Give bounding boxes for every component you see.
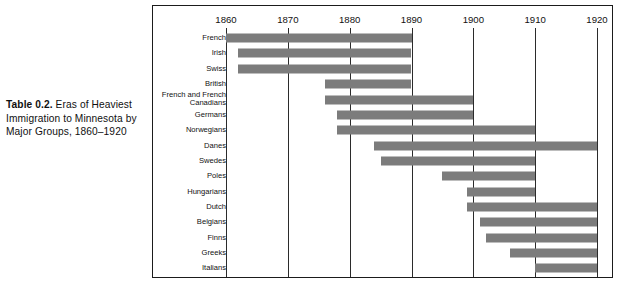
row-label-french-and-french-canadians: French and French Canadians [154,91,226,108]
row-label-greeks: Greeks [202,249,226,258]
chart-row: Germans [153,107,612,122]
chart-row: Swedes [153,153,612,168]
chart-frame: 1860187018801890190019101920FrenchIrishS… [152,5,613,278]
chart-row: Dutch [153,199,612,214]
chart-plot-area: 1860187018801890190019101920FrenchIrishS… [153,6,612,277]
row-label-germans: Germans [195,111,226,120]
axis-tick-label-1900: 1900 [463,14,484,25]
row-label-dutch: Dutch [206,203,226,212]
bar-finns [486,233,597,242]
row-label-hungarians: Hungarians [187,187,226,196]
bar-belgians [480,218,597,227]
bar-swedes [381,156,536,165]
row-label-italians: Italians [202,264,226,273]
row-label-irish: Irish [212,49,226,58]
row-label-belgians: Belgians [197,218,226,227]
bar-hungarians [467,187,535,196]
bar-irish [238,49,411,58]
bar-swiss [238,64,411,73]
row-label-swedes: Swedes [199,157,226,166]
chart-row: Italians [153,261,612,276]
axis-tick-label-1880: 1880 [339,14,360,25]
row-label-norwegians: Norwegians [186,126,226,135]
row-label-british: British [205,80,226,89]
axis-tick-label-1910: 1910 [524,14,545,25]
chart-row: French [153,31,612,46]
bar-british [325,80,412,89]
chart-row: Danes [153,138,612,153]
table-caption: Table 0.2. Eras of Heaviest Immigration … [6,98,146,139]
caption-lead: Table 0.2. [6,99,53,110]
chart-row: Norwegians [153,123,612,138]
bar-greeks [510,249,597,258]
bar-danes [374,141,597,150]
page-root: Table 0.2. Eras of Heaviest Immigration … [0,0,618,287]
chart-row: Irish [153,46,612,61]
bar-french [226,34,412,43]
row-label-poles: Poles [207,172,226,181]
bar-norwegians [337,126,535,135]
row-label-danes: Danes [204,141,226,150]
axis-tick-label-1890: 1890 [401,14,422,25]
row-label-swiss: Swiss [206,65,226,74]
axis-tick-label-1920: 1920 [586,14,607,25]
chart-row: Belgians [153,215,612,230]
row-label-finns: Finns [207,233,226,242]
chart-row: Swiss [153,61,612,76]
axis-tick-label-1870: 1870 [277,14,298,25]
chart-row: Poles [153,169,612,184]
chart-row: French and French Canadians [153,92,612,107]
bar-dutch [467,202,597,211]
bar-poles [442,172,535,181]
chart-row: Finns [153,230,612,245]
row-label-french: French [202,34,226,43]
chart-row: Hungarians [153,184,612,199]
axis-tick-label-1860: 1860 [215,14,236,25]
bar-italians [535,264,597,273]
bar-french-and-french-canadians [325,95,473,104]
bar-germans [337,110,473,119]
chart-row: Greeks [153,245,612,260]
